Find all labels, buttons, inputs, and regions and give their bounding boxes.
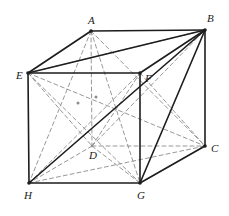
face-center-ABFE-dot xyxy=(95,96,98,99)
vertex-label-D: D xyxy=(88,149,97,161)
cube-figure: ABCDEFGH xyxy=(0,0,229,216)
vertex-dot-A xyxy=(89,29,93,33)
vertex-label-B: B xyxy=(207,12,214,24)
cube-svg-canvas: ABCDEFGH xyxy=(0,0,229,216)
edge-AB xyxy=(91,30,205,31)
face-center-ABFE-marker xyxy=(95,96,98,99)
vertex-dot-E xyxy=(26,71,30,75)
face-center-EDGH-marker xyxy=(77,102,80,105)
vertex-dot-F xyxy=(138,71,142,75)
vertex-dot-H xyxy=(27,181,31,185)
vertex-dot-B xyxy=(203,28,207,32)
edge-EH xyxy=(28,73,29,183)
face-center-EDGH-dot xyxy=(77,102,80,105)
vertex-label-H: H xyxy=(23,189,33,201)
vertex-dot-D xyxy=(91,145,93,147)
vertex-dot-G xyxy=(138,181,142,185)
vertex-label-C: C xyxy=(211,142,219,154)
vertex-label-E: E xyxy=(15,69,23,81)
vertex-dot-C xyxy=(203,144,207,148)
vertex-label-F: F xyxy=(144,72,152,84)
vertex-label-A: A xyxy=(87,14,95,26)
vertex-label-G: G xyxy=(137,189,145,201)
